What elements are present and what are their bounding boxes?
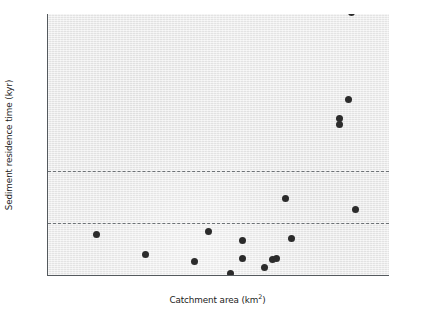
y-axis-minor-tick: [47, 92, 48, 93]
y-axis-tick: [47, 66, 48, 67]
x-axis-tick: [145, 275, 146, 276]
y-axis-minor-tick: [47, 249, 48, 250]
plot-area: 0510152025 1101001,00010,000100,0001,000…: [47, 14, 389, 276]
data-point: [282, 195, 289, 202]
data-point: [93, 231, 100, 238]
x-axis-tick: [48, 275, 49, 276]
x-axis-tick: [340, 275, 341, 276]
y-axis-minor-tick: [47, 145, 48, 146]
scatter-chart-figure: 0510152025 1101001,00010,000100,0001,000…: [0, 0, 425, 312]
data-point: [345, 96, 352, 103]
x-axis-tick: [292, 275, 293, 276]
y-axis-tick: [47, 223, 48, 224]
x-axis-title: Catchment area (km2): [47, 295, 388, 305]
data-point: [239, 237, 246, 244]
data-point: [273, 255, 280, 262]
y-axis-title-text: Sediment residence time (kyr): [4, 79, 14, 210]
upper-reference-line: [48, 171, 389, 172]
y-axis-tick: [47, 118, 48, 119]
data-point: [142, 251, 149, 258]
data-point: [261, 264, 268, 271]
data-point: [348, 14, 355, 16]
lower-reference-line: [48, 223, 389, 224]
x-axis-tick: [97, 275, 98, 276]
y-axis-tick: [47, 275, 48, 276]
data-point: [336, 121, 343, 128]
data-point: [239, 255, 246, 262]
data-point: [191, 258, 198, 265]
y-axis-minor-tick: [47, 197, 48, 198]
x-axis-tick: [243, 275, 244, 276]
y-axis-minor-tick: [47, 40, 48, 41]
x-axis-tick: [194, 275, 195, 276]
y-axis-tick: [47, 14, 48, 15]
data-point: [227, 270, 234, 276]
y-axis-tick: [47, 171, 48, 172]
y-axis-title: Sediment residence time (kyr): [2, 14, 16, 275]
x-axis-title-text: Catchment area (km2): [169, 295, 265, 305]
data-point: [205, 228, 212, 235]
data-point: [352, 206, 359, 213]
data-point: [288, 235, 295, 242]
